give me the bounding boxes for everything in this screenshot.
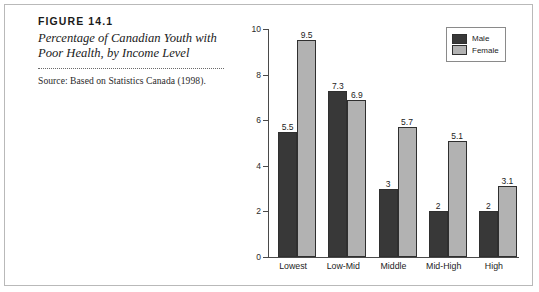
bar-male: 2 [429,211,448,257]
chart-legend: Male Female [446,27,506,62]
y-axis-label: 2 [241,206,261,216]
bar-female: 6.9 [347,100,366,257]
figure-title: Percentage of Canadian Youth with Poor H… [38,31,223,61]
bar-female: 5.1 [448,141,467,257]
bar-male: 7.3 [328,91,347,257]
legend-swatch-female [452,45,467,55]
bar-value-label: 9.5 [301,30,313,40]
bar-value-label: 5.5 [282,122,294,132]
legend-item-male: Male [452,34,499,44]
bar-value-label: 5.7 [401,117,413,127]
bar-value-label: 7.3 [332,81,344,91]
y-axis-label: 6 [241,115,261,125]
bar-value-label: 3 [386,179,391,189]
legend-label-female: Female [472,46,499,55]
bar-value-label: 6.9 [351,90,363,100]
y-axis-label: 4 [241,161,261,171]
bar-group: 5.59.5 [278,29,316,257]
bar-chart: 0246810 5.59.57.36.935.725.123.1 LowestL… [241,21,529,283]
y-axis-label: 0 [241,252,261,262]
bar-group: 35.7 [379,29,417,257]
y-axis-tick [263,257,269,258]
bar-value-label: 5.1 [451,131,463,141]
legend-label-male: Male [472,34,489,43]
bar-male: 2 [479,211,498,257]
bar-female: 5.7 [398,127,417,257]
bar-female: 3.1 [498,186,517,257]
bar-male: 5.5 [278,132,297,257]
bar-value-label: 2 [486,201,491,211]
y-axis-tick [263,120,269,121]
legend-swatch-male [452,34,467,44]
bar-group: 7.36.9 [328,29,366,257]
y-axis-label: 8 [241,70,261,80]
y-axis-tick [263,166,269,167]
category-label: Low-Mid [318,261,368,271]
figure-source: Source: Based on Statistics Canada (1998… [38,75,228,86]
bar-group: 23.1 [479,29,517,257]
category-label: Middle [368,261,418,271]
legend-item-female: Female [452,45,499,55]
dotted-divider [38,65,224,69]
category-label: Lowest [268,261,318,271]
bar-group: 25.1 [429,29,467,257]
y-axis-label: 10 [241,24,261,34]
bar-value-label: 3.1 [501,176,513,186]
bar-female: 9.5 [297,40,316,257]
y-axis-tick [263,75,269,76]
category-label: Mid-High [419,261,469,271]
y-axis-tick [263,29,269,30]
y-axis-tick [263,211,269,212]
figure-caption: FIGURE 14.1 Percentage of Canadian Youth… [38,15,228,86]
x-axis-line [268,257,519,258]
bar-male: 3 [379,189,398,257]
y-axis-line [268,29,269,257]
figure-number: FIGURE 14.1 [38,15,228,27]
category-label: High [469,261,519,271]
figure-frame: FIGURE 14.1 Percentage of Canadian Youth… [4,4,533,286]
bar-value-label: 2 [436,201,441,211]
